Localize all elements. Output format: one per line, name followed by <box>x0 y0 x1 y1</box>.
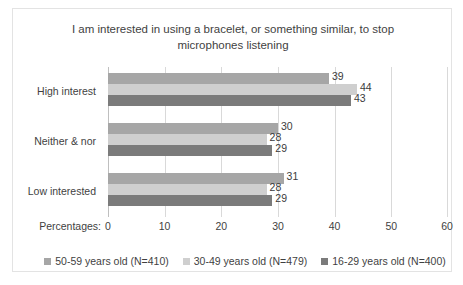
category-label-low-interested: Low interested <box>0 185 96 197</box>
bar-low-interested-16-29[interactable] <box>108 195 272 206</box>
bar-neither-nor-16-29[interactable] <box>108 145 272 156</box>
chart-legend: 50-59 years old (N=410) 30-49 years old … <box>25 255 463 267</box>
legend-swatch-icon <box>44 258 51 265</box>
legend-item-50-59[interactable]: 50-59 years old (N=410) <box>44 255 169 267</box>
legend-label-30-49: 30-49 years old (N=479) <box>194 255 308 267</box>
bar-group-low-interested: Low interested 31 28 29 <box>108 173 448 223</box>
plot-area: High interest 39 44 43 Neither & nor 30 <box>108 67 448 217</box>
bar-value-high-interest-50-59: 39 <box>329 70 344 82</box>
x-tick-20: 20 <box>215 220 227 232</box>
x-tick-30: 30 <box>272 220 284 232</box>
x-tick-10: 10 <box>159 220 171 232</box>
legend-label-16-29: 16-29 years old (N=400) <box>332 255 446 267</box>
legend-item-30-49[interactable]: 30-49 years old (N=479) <box>183 255 308 267</box>
bar-track: 39 <box>108 73 448 84</box>
legend-swatch-icon <box>321 258 328 265</box>
bar-high-interest-30-49[interactable] <box>108 84 357 95</box>
bar-group-high-interest: High interest 39 44 43 <box>108 73 448 123</box>
bar-high-interest-50-59[interactable] <box>108 73 329 84</box>
bar-track: 29 <box>108 145 448 156</box>
legend-label-50-59: 50-59 years old (N=410) <box>55 255 169 267</box>
chart-container: I am interested in using a bracelet, or … <box>12 8 452 272</box>
x-tick-60: 60 <box>441 220 453 232</box>
bar-high-interest-16-29[interactable] <box>108 95 351 106</box>
bar-group-neither-nor: Neither & nor 30 28 29 <box>108 123 448 173</box>
bar-low-interested-30-49[interactable] <box>108 184 267 195</box>
bar-neither-nor-30-49[interactable] <box>108 134 267 145</box>
bar-value-low-interested-16-29: 29 <box>272 192 287 204</box>
x-tick-50: 50 <box>385 220 397 232</box>
x-tick-40: 40 <box>329 220 341 232</box>
category-label-high-interest: High interest <box>0 85 96 97</box>
bar-value-high-interest-16-29: 43 <box>351 92 366 104</box>
legend-swatch-icon <box>183 258 190 265</box>
bar-neither-nor-50-59[interactable] <box>108 123 278 134</box>
chart-title: I am interested in using a bracelet, or … <box>39 21 427 53</box>
bar-value-neither-nor-16-29: 29 <box>272 142 287 154</box>
legend-item-16-29[interactable]: 16-29 years old (N=400) <box>321 255 446 267</box>
bar-value-low-interested-50-59: 31 <box>284 170 299 182</box>
x-axis-tick-labels: 0 10 20 30 40 50 60 <box>108 220 448 236</box>
bar-track: 29 <box>108 195 448 206</box>
category-label-neither-nor: Neither & nor <box>0 135 96 147</box>
bar-track: 43 <box>108 95 448 106</box>
bar-track: 44 <box>108 84 448 95</box>
x-axis-title: Percentages: <box>39 220 101 232</box>
bar-low-interested-50-59[interactable] <box>108 173 284 184</box>
x-tick-0: 0 <box>105 220 111 232</box>
